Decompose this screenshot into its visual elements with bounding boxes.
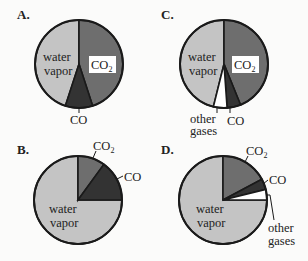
label-gases: gases [190, 124, 217, 138]
pie-chart-b: B. water vapor CO2 CO [17, 139, 141, 244]
chart-letter-c: C. [161, 7, 174, 22]
label-vapor: vapor [189, 64, 218, 78]
label-vapor: vapor [50, 216, 79, 230]
pie-chart-c: C. water vapor CO2 other gases CO [161, 7, 268, 138]
label-water: water [196, 202, 225, 216]
label-water: water [49, 202, 78, 216]
chart-letter-a: A. [17, 7, 30, 22]
label-vapor: vapor [197, 216, 226, 230]
label-co: CO [70, 113, 87, 127]
label-co2: CO2 [246, 144, 267, 160]
label-water: water [188, 50, 217, 64]
label-co: CO [124, 170, 141, 184]
pie-charts-figure: A. water vapor CO2 CO C. water vapor CO2… [0, 0, 308, 261]
pie-chart-a: A. water vapor CO2 CO [17, 7, 123, 127]
label-water: water [43, 50, 72, 64]
label-co2: CO2 [93, 139, 114, 155]
label-other: other [268, 221, 295, 235]
label-gases: gases [268, 234, 295, 248]
label-co: CO [227, 114, 244, 128]
pie-chart-d: D. water vapor CO2 CO other gases [161, 142, 295, 248]
chart-letter-d: D. [161, 142, 174, 157]
label-vapor: vapor [44, 64, 73, 78]
label-co: CO [269, 173, 286, 187]
chart-letter-b: B. [17, 142, 29, 157]
